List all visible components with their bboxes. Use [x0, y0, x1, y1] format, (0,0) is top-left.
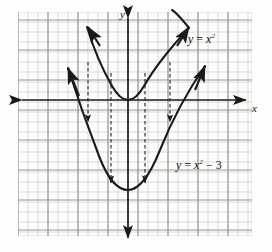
- curve1-lhs: y: [188, 32, 193, 46]
- curve2-tail: − 3: [206, 158, 222, 172]
- paper-background: [0, 0, 272, 252]
- y-axis-label: y: [120, 9, 125, 20]
- graph-svg: [0, 0, 272, 252]
- curve1-exponent: 2: [211, 32, 215, 40]
- curve1-equals: =: [196, 32, 203, 46]
- figure-canvas: y x y = x2 y = x2− 3: [0, 0, 272, 252]
- curve2-exponent: 2: [199, 158, 203, 166]
- curve2-equals: =: [184, 158, 191, 172]
- curve-label-lower: y = x2− 3: [176, 159, 222, 171]
- x-axis-label: x: [252, 103, 257, 114]
- curve-label-upper: y = x2: [188, 33, 215, 45]
- curve2-lhs: y: [176, 158, 181, 172]
